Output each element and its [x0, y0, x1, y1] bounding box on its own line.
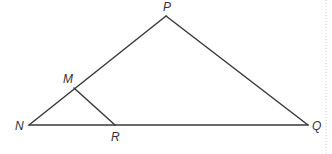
vertex-label-P: P — [163, 0, 171, 14]
segment-PQ — [166, 16, 308, 125]
triangle-diagram: P N M R Q — [0, 0, 332, 154]
point-label-R: R — [111, 130, 120, 144]
point-label-M: M — [63, 72, 73, 86]
vertex-label-Q: Q — [312, 119, 321, 133]
vertex-label-N: N — [15, 119, 24, 133]
segment-MR — [74, 88, 115, 125]
